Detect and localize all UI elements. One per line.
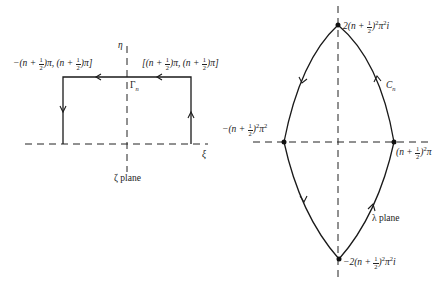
eta-axis-label: η xyxy=(118,41,123,51)
top-point-label: 2(n + 12)2π2i xyxy=(343,20,389,34)
vertex-top xyxy=(336,23,341,28)
cn-arrows xyxy=(299,76,381,211)
vertex-right xyxy=(392,140,397,145)
corner-left-label: −(n + 12)π, (n + 12)π] xyxy=(13,57,92,71)
xi-axis-label: ξ xyxy=(202,150,206,160)
lambda-plane-label: λ plane xyxy=(372,214,400,224)
bottom-point-label: −2(n + 12)2π2i xyxy=(343,256,396,270)
gamma-n-label: Γn xyxy=(130,81,139,92)
left-point-label: −(n + 12)2π2 xyxy=(222,123,267,137)
diagram-canvas xyxy=(0,0,448,283)
vertex-left xyxy=(282,140,287,145)
zeta-plane-label: ζ plane xyxy=(114,174,141,184)
arrow-down-icon xyxy=(300,196,307,202)
right-point-label: (n + 12)2π xyxy=(396,146,432,160)
lambda-plane-axes xyxy=(253,6,428,278)
corner-right-label: [(n + 12)π, (n + 12)π] xyxy=(142,57,219,71)
vertex-bottom xyxy=(337,257,342,262)
cn-label: Cn xyxy=(386,81,396,92)
